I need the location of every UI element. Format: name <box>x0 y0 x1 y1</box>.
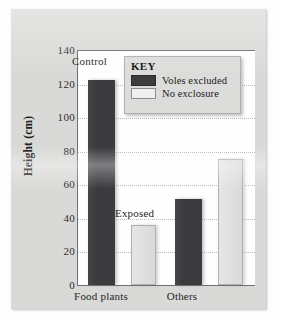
bar-food-plants-no-exclosure <box>131 225 156 285</box>
annotation-exposed: Exposed <box>115 207 154 219</box>
bar-others-no-exclosure <box>218 159 243 285</box>
legend: KEY Voles excluded No exclosure <box>124 56 241 114</box>
x-category-label-others: Others <box>147 290 217 302</box>
y-tick-label: 80 <box>41 145 75 157</box>
legend-title: KEY <box>131 60 240 73</box>
y-tick-label: 120 <box>41 78 75 90</box>
legend-entry-label: Voles excluded <box>162 75 227 86</box>
bar-others-voles-excluded <box>175 199 202 285</box>
x-category-label-food-plants: Food plants <box>61 290 141 302</box>
legend-entry-no-exclosure: No exclosure <box>131 88 240 99</box>
legend-swatch-dark <box>131 75 156 86</box>
annotation-control: Control <box>72 55 107 67</box>
y-tick-label: 60 <box>41 178 75 190</box>
y-tick-label: 140 <box>41 44 75 56</box>
y-tick-label: 40 <box>41 212 75 224</box>
y-tick-label: 20 <box>41 245 75 257</box>
y-axis-ticks: 140 120 100 80 60 40 20 0 <box>37 50 75 285</box>
figure-page: Height (cm) 140 120 100 80 60 40 20 0 <box>0 0 281 320</box>
figure-panel: Height (cm) 140 120 100 80 60 40 20 0 <box>11 9 266 309</box>
legend-entry-voles-excluded: Voles excluded <box>131 75 240 86</box>
legend-entry-label: No exclosure <box>162 88 219 99</box>
y-axis-title: Height (cm) <box>22 91 34 201</box>
bar-food-plants-voles-excluded <box>88 80 115 285</box>
y-tick-label: 100 <box>41 111 75 123</box>
x-axis-line <box>77 285 255 286</box>
legend-swatch-light <box>131 88 156 99</box>
